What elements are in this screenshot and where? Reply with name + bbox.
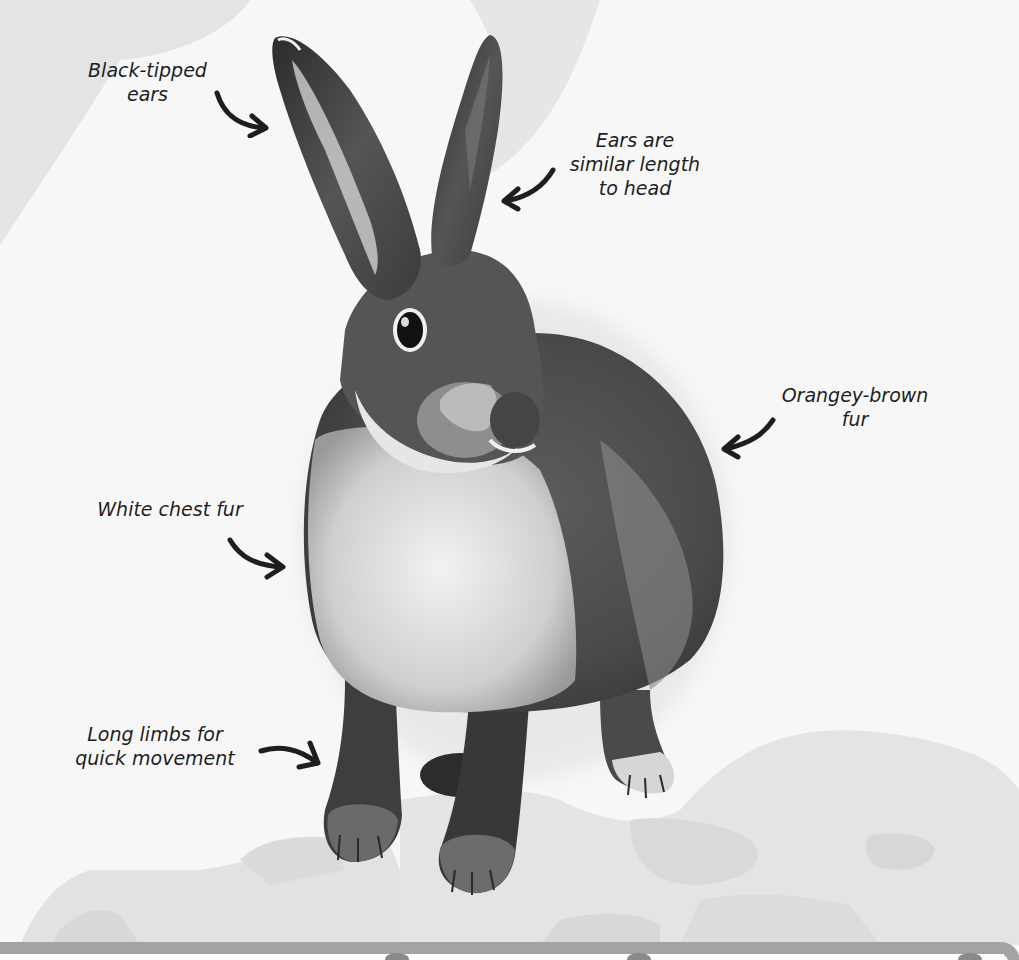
label-line: ears [80,82,215,106]
label-orangey-brown-fur: Orangey-brown fur [765,383,945,431]
label-line: to head [560,176,710,200]
label-line: quick movement [60,746,250,770]
label-ear-length: Ears are similar length to head [560,128,710,200]
label-line: White chest fur [75,497,265,521]
label-long-limbs: Long limbs for quick movement [60,722,250,770]
arrow-right-icon [225,535,290,580]
label-line: fur [765,407,945,431]
label-line: similar length [560,152,710,176]
label-line: Long limbs for [60,722,250,746]
label-black-tipped-ears: Black-tipped ears [80,58,215,106]
hare-diagram: Black-tipped ears Ears are similar lengt… [0,0,1019,960]
arrow-left-icon [718,415,780,460]
arrow-right-icon [212,88,272,138]
label-white-chest-fur: White chest fur [75,497,265,521]
label-line: Ears are [560,128,710,152]
label-line: Orangey-brown [765,383,945,407]
label-line: Black-tipped [80,58,215,82]
bottom-frame [0,940,1019,960]
arrow-left-icon [498,165,560,215]
arrow-right-icon [255,735,325,780]
hare-illustration [0,0,1019,960]
